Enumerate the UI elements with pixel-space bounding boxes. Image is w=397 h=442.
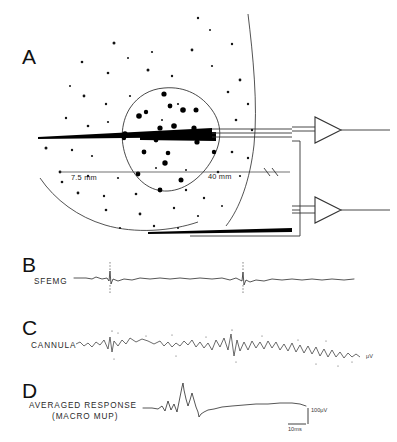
- dimension-label-near: 7.5 mm: [71, 173, 97, 182]
- trace-label-averaged-response: AVERAGED RESPONSE: [29, 401, 137, 410]
- panel-letter-c: C: [22, 316, 37, 339]
- macro-needle-tip-wedge: [140, 132, 216, 141]
- sfemg-trace: [74, 271, 354, 285]
- amp1-input-wires: [292, 127, 315, 131]
- panel-d-group: D AVERAGED RESPONSE (MACRO MUP) 10ms 100…: [22, 379, 328, 432]
- macro-mup-trace: [143, 383, 306, 417]
- time-scale-label: 10ms: [288, 426, 302, 432]
- amplifier-1-triangle: [315, 117, 341, 143]
- trace-label-cannula: CANNULA: [31, 341, 76, 350]
- panel-letter-b: B: [22, 253, 36, 276]
- amplifier-2-triangle: [315, 197, 341, 223]
- dimension-label-far: 40 mm: [208, 172, 232, 181]
- panel-b-group: B SFEMG: [22, 253, 354, 293]
- amp2-input-wires: [292, 206, 315, 213]
- trace-label-sfemg: SFEMG: [34, 277, 68, 286]
- cannula-trace: [76, 334, 360, 358]
- figure-panel-group: A: [0, 0, 397, 442]
- cannula-amplitude-scale-label: μV: [366, 353, 373, 359]
- muscle-fiber-dots: [45, 17, 254, 229]
- panel-letter-a: A: [22, 45, 36, 68]
- figure-canvas: A: [0, 0, 397, 442]
- trace-label-macro-mup: (MACRO MUP): [52, 412, 118, 421]
- panel-a-group: A: [22, 14, 390, 236]
- muscle-boundary-lower-arc: [40, 178, 198, 230]
- motor-unit-fiber-dots: [122, 91, 216, 192]
- amplitude-scale-label: 100μV: [311, 407, 328, 413]
- panel-letter-d: D: [22, 379, 37, 402]
- panel-c-group: C CANNULA μV: [22, 316, 373, 367]
- reference-bus-to-amp1: [292, 141, 300, 236]
- muscle-boundary-right-arc: [226, 14, 255, 226]
